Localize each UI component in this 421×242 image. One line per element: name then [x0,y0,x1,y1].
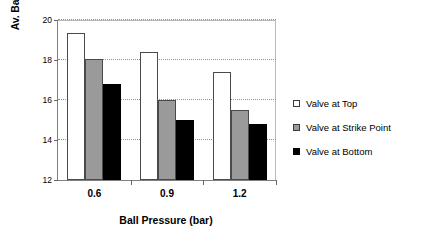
legend-item[interactable]: Valve at Strike Point [293,122,391,133]
y-axis-title: Av. Ball Launch Elevation (deg) [2,0,28,40]
y-tick-label: 14 [43,136,52,145]
bar-group [140,20,194,180]
x-tick-mark [276,180,277,185]
bar[interactable] [176,120,194,180]
bar-group [213,20,267,180]
x-tick-label: 1.2 [233,188,247,199]
legend-label: Valve at Top [306,98,357,109]
x-tick-mark [131,180,132,185]
legend-swatch-icon [293,124,300,131]
y-tick-label: 18 [43,56,52,65]
y-tick-mark [54,100,58,101]
y-tick-label: 12 [43,176,52,185]
y-tick-mark [54,20,58,21]
legend-label: Valve at Strike Point [306,122,391,133]
bar[interactable] [158,100,176,180]
legend-label: Valve at Bottom [306,146,372,157]
bar[interactable] [231,110,249,180]
y-tick-mark [54,60,58,61]
chart-legend: Valve at TopValve at Strike PointValve a… [293,98,391,157]
x-axis-title: Ball Pressure (bar) [57,214,275,226]
y-tick-label: 20 [43,16,52,25]
x-tick-mark [203,180,204,185]
bar[interactable] [67,33,85,180]
bar-chart: Av. Ball Launch Elevation (deg) 12141618… [0,0,421,242]
legend-item[interactable]: Valve at Top [293,98,391,109]
x-tick-label: 0.9 [160,188,174,199]
y-tick-label: 16 [43,96,52,105]
plot-area: 1214161820 0.60.91.2 [57,20,276,181]
legend-swatch-icon [293,100,300,107]
bar[interactable] [85,59,103,180]
x-tick-label: 0.6 [87,188,101,199]
y-tick-mark [54,140,58,141]
bar[interactable] [213,72,231,180]
bar[interactable] [103,84,121,180]
bar[interactable] [249,124,267,180]
bar[interactable] [140,52,158,180]
legend-swatch-icon [293,148,300,155]
legend-item[interactable]: Valve at Bottom [293,146,391,157]
bar-group [67,20,121,180]
y-tick-mark [54,180,58,181]
